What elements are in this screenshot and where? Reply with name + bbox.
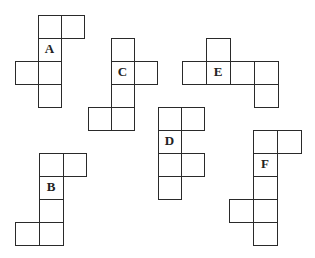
net-square [206, 38, 231, 62]
net-square [253, 222, 278, 246]
net-square [61, 15, 85, 39]
net-square [38, 61, 62, 85]
net-square [39, 199, 64, 223]
net-square [111, 38, 135, 62]
net-square [39, 153, 64, 177]
net-square [15, 222, 40, 246]
net-label: C [111, 64, 134, 80]
net-square [181, 153, 205, 177]
net-square [230, 61, 255, 85]
net-square [38, 84, 62, 108]
net-square [39, 222, 64, 246]
net-square [158, 107, 182, 131]
net-label: B [39, 179, 63, 195]
net-square [253, 176, 278, 200]
cube-nets-figure: ACEDBF [0, 0, 315, 258]
net-square [254, 61, 279, 85]
net-label: D [158, 133, 181, 149]
net-square [111, 84, 135, 108]
net-label: E [206, 64, 230, 80]
net-square [63, 153, 87, 177]
net-square [15, 61, 39, 85]
net-square [277, 130, 302, 154]
net-square [253, 130, 278, 154]
net-square [253, 199, 278, 223]
net-square [181, 107, 205, 131]
net-square [111, 107, 135, 131]
net-square [158, 153, 182, 177]
net-square [229, 199, 254, 223]
net-square [158, 176, 182, 200]
net-square [88, 107, 112, 131]
net-square [38, 15, 62, 39]
net-square [134, 61, 158, 85]
net-square [182, 61, 207, 85]
net-square [254, 84, 279, 108]
net-label: F [253, 156, 277, 172]
net-label: A [38, 41, 61, 57]
